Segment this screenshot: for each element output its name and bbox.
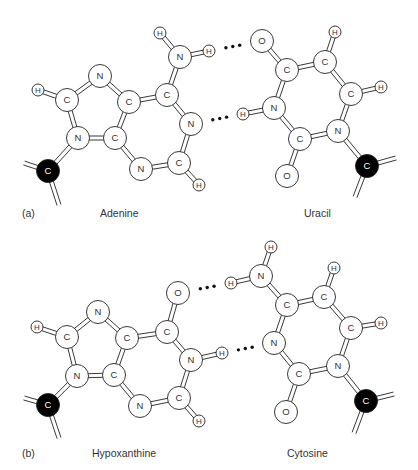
adenine-atom-c: C	[156, 84, 179, 107]
cytosine-atom-h: H	[265, 241, 277, 253]
cytosine-atom-h: H	[225, 277, 237, 289]
svg-text:N: N	[188, 354, 195, 365]
hypoxanthine-atom-c: C	[103, 364, 126, 387]
uracil-atom-c: C	[340, 83, 363, 106]
uracil-atom-n: N	[263, 97, 286, 120]
hypoxanthine-atom-n: N	[180, 349, 203, 372]
adenine-atom-c: C	[168, 152, 191, 175]
svg-text:N: N	[271, 337, 278, 348]
uracil-atom-o: O	[251, 30, 274, 53]
adenine-atom-n: N	[169, 46, 192, 69]
adenine-atom-h: H	[32, 84, 44, 96]
uracil-atom-o: O	[276, 165, 299, 188]
svg-text:N: N	[258, 270, 265, 281]
cytosine-atom-c: C	[340, 317, 363, 340]
svg-text:N: N	[138, 163, 145, 174]
svg-text:H: H	[219, 349, 225, 358]
svg-text:H: H	[378, 83, 384, 92]
hypoxanthine-atom-h: H	[216, 347, 228, 359]
svg-text:N: N	[137, 400, 144, 411]
adenine-atom-n: N	[89, 65, 112, 88]
svg-text:C: C	[111, 369, 118, 380]
adenine-atom-c: C	[56, 89, 79, 112]
svg-text:H: H	[196, 181, 202, 190]
svg-text:C: C	[321, 291, 328, 302]
svg-text:H: H	[240, 110, 246, 119]
molecular-diagram: HCNCCNHHNCHNCNCOCCHCHNCONHCHCNCCONHCHNCN…	[0, 0, 418, 470]
svg-text:C: C	[45, 165, 52, 176]
svg-text:C: C	[297, 133, 304, 144]
adenine-atom-c: C	[118, 91, 141, 114]
hypoxanthine-atom-c: C	[156, 321, 179, 344]
hypoxanthine-atom-c-sugar-carbon: C	[37, 394, 60, 417]
adenine-atom-c-sugar-carbon: C	[37, 160, 60, 183]
cytosine-atom-c-sugar-carbon: C	[355, 390, 378, 413]
svg-text:H: H	[332, 28, 338, 37]
svg-text:C: C	[296, 368, 303, 379]
svg-text:H: H	[228, 279, 234, 288]
cytosine-atom-c: C	[288, 363, 311, 386]
adenine-atom-c: C	[104, 127, 127, 150]
uracil-atom-c-sugar-carbon: C	[356, 155, 379, 178]
hydrogen-bonds	[199, 44, 254, 352]
uracil-atom-c: C	[289, 128, 312, 151]
svg-text:N: N	[75, 132, 82, 143]
svg-text:C: C	[363, 395, 370, 406]
hypoxanthine-caption: Hypoxanthine	[92, 447, 156, 459]
uracil-atom-h: H	[237, 108, 249, 120]
svg-text:C: C	[164, 89, 171, 100]
cytosine-atom-o: O	[275, 401, 298, 424]
svg-text:C: C	[176, 157, 183, 168]
hypoxanthine-atom-n: N	[66, 365, 89, 388]
cytosine-atom-n: N	[250, 265, 273, 288]
svg-text:O: O	[283, 170, 290, 181]
hypoxanthine-atom-n: N	[129, 395, 152, 418]
hydrogen-bond-dots	[224, 44, 241, 50]
adenine-atom-n: N	[180, 113, 203, 136]
cytosine-atom-c: C	[276, 294, 299, 317]
adenine-atom-h: H	[154, 27, 166, 39]
hypoxanthine-atom-h: H	[193, 415, 205, 427]
uracil-atom-n: N	[327, 120, 350, 143]
cytosine-atom-c: C	[313, 286, 336, 309]
cytosine-atom-h: H	[328, 262, 340, 274]
svg-text:N: N	[335, 125, 342, 136]
svg-text:N: N	[74, 370, 81, 381]
svg-text:H: H	[331, 264, 337, 273]
svg-text:H: H	[34, 323, 40, 332]
uracil-atom-h: H	[329, 26, 341, 38]
svg-text:N: N	[95, 306, 102, 317]
hypoxanthine-atom-c: C	[56, 326, 79, 349]
hydrogen-bond-dots	[237, 345, 254, 351]
svg-text:C: C	[64, 331, 71, 342]
svg-text:N: N	[188, 118, 195, 129]
svg-text:C: C	[348, 322, 355, 333]
atoms: HCNCCNHHNCHNCNCOCCHCHNCONHCHCNCCONHCHNCN…	[31, 26, 387, 427]
svg-text:H: H	[378, 319, 384, 328]
svg-text:N: N	[97, 70, 104, 81]
hypoxanthine-atom-c: C	[116, 327, 139, 350]
svg-text:N: N	[177, 51, 184, 62]
svg-text:C: C	[348, 88, 355, 99]
adenine-caption: Adenine	[100, 207, 139, 219]
svg-text:C: C	[124, 332, 131, 343]
uracil-atom-h: H	[375, 81, 387, 93]
hypoxanthine-atom-n: N	[87, 301, 110, 324]
svg-text:C: C	[112, 132, 119, 143]
svg-text:C: C	[45, 399, 52, 410]
svg-text:H: H	[35, 86, 41, 95]
svg-text:O: O	[282, 406, 289, 417]
uracil-caption: Uracil	[304, 207, 331, 219]
svg-text:H: H	[196, 417, 202, 426]
svg-text:O: O	[258, 35, 265, 46]
svg-text:C: C	[164, 326, 171, 337]
hypoxanthine-atom-c: C	[168, 387, 191, 410]
hydrogen-bond-dots	[199, 284, 216, 290]
cytosine-caption: Cytosine	[287, 447, 328, 459]
adenine-atom-n: N	[130, 158, 153, 181]
adenine-atom-h: H	[193, 179, 205, 191]
cytosine-atom-n: N	[263, 332, 286, 355]
uracil-atom-c: C	[314, 51, 337, 74]
hypoxanthine-atom-h: H	[31, 321, 43, 333]
panel-b-label: (b)	[22, 447, 35, 459]
